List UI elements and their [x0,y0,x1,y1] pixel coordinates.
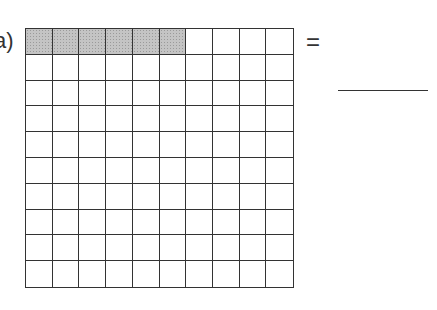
shaded-cell [79,29,106,55]
grid-cell [160,158,187,184]
grid-cell [266,210,293,236]
grid-cell [186,29,213,55]
grid-cell [79,261,106,287]
shaded-cell [53,29,80,55]
grid-cell [266,55,293,81]
grid-cell [133,184,160,210]
grid-cell [53,184,80,210]
grid-cell [106,55,133,81]
grid-cell [133,55,160,81]
grid-cell [266,132,293,158]
grid-cell [106,210,133,236]
grid-cell [186,210,213,236]
grid-cell [26,132,53,158]
grid-cell [266,261,293,287]
grid-cell [160,132,187,158]
grid-cell [160,106,187,132]
grid-cell [79,55,106,81]
grid-cell [133,235,160,261]
grid-cell [186,261,213,287]
grid-cell [106,106,133,132]
answer-blank[interactable] [338,90,428,91]
grid-cell [213,235,240,261]
grid-cell [79,235,106,261]
grid-cell [53,55,80,81]
grid-cell [240,184,267,210]
grid-cell [53,210,80,236]
problem-label: a) [0,28,14,54]
shaded-cell [160,29,187,55]
grid-cell [266,81,293,107]
grid-cell [133,210,160,236]
shaded-cell [106,29,133,55]
grid-cell [240,132,267,158]
grid-cell [213,184,240,210]
grid-cell [240,158,267,184]
grid-cell [106,235,133,261]
grid-cell [266,158,293,184]
shaded-cell [26,29,53,55]
grid-cell [213,106,240,132]
grid-cell [240,235,267,261]
grid-cell [186,158,213,184]
grid-cell [26,106,53,132]
grid-cell [266,29,293,55]
grid-cell [266,106,293,132]
grid-cell [186,106,213,132]
grid-cell [106,132,133,158]
grid-cell [213,158,240,184]
grid-cell [106,184,133,210]
grid-cell [266,184,293,210]
grid-cell [26,210,53,236]
grid-cell [160,210,187,236]
grid-cell [106,158,133,184]
grid-cell [240,55,267,81]
grid-cell [186,184,213,210]
grid-cell [133,106,160,132]
grid-cell [79,158,106,184]
grid-cell [133,81,160,107]
grid-cell [79,132,106,158]
grid-cell [106,81,133,107]
grid-cell [106,261,133,287]
hundred-grid [25,28,294,288]
grid-cell [266,235,293,261]
grid-cell [53,158,80,184]
grid-cell [186,55,213,81]
grid-cell [160,81,187,107]
grid-cell [53,106,80,132]
grid-cell [53,261,80,287]
grid-cell [79,210,106,236]
grid-cell [160,184,187,210]
shaded-cell [133,29,160,55]
grid-cell [26,81,53,107]
grid-cell [240,29,267,55]
grid-cell [213,29,240,55]
equals-sign: = [306,28,320,56]
grid-cell [213,55,240,81]
grid-cell [240,210,267,236]
grid-cell [26,158,53,184]
grid-cell [79,106,106,132]
grid-cell [26,235,53,261]
grid-cell [160,235,187,261]
grid-cell [186,132,213,158]
grid-cell [26,261,53,287]
grid-cell [26,55,53,81]
grid-cell [79,81,106,107]
grid-cell [133,158,160,184]
grid-cell [160,261,187,287]
grid-cell [79,184,106,210]
grid-cell [53,235,80,261]
grid-cell [213,81,240,107]
grid-cell [53,132,80,158]
grid-cell [240,261,267,287]
grid-cell [186,81,213,107]
grid-cell [160,55,187,81]
grid-cell [213,210,240,236]
grid-cell [133,132,160,158]
grid-cell [133,261,160,287]
grid-cell [213,261,240,287]
grid-cell [213,132,240,158]
grid-cell [186,235,213,261]
